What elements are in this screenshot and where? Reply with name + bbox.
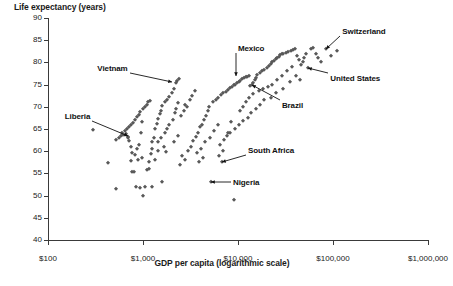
data-point <box>212 129 217 134</box>
data-point <box>178 162 183 167</box>
data-point <box>245 115 250 120</box>
data-point <box>170 118 175 123</box>
annotation-arrow <box>216 149 252 168</box>
data-point <box>231 198 236 203</box>
data-point <box>162 131 167 136</box>
y-tick-label: 80 <box>2 58 42 66</box>
data-point <box>167 122 172 127</box>
data-point <box>164 150 169 155</box>
data-point <box>222 138 227 143</box>
data-point <box>156 140 161 145</box>
data-point <box>156 149 161 154</box>
data-point <box>106 161 111 166</box>
data-point <box>178 113 183 118</box>
y-tick-label: 45 <box>2 214 42 222</box>
data-point <box>137 185 142 190</box>
data-point <box>254 107 259 112</box>
data-point <box>150 140 155 145</box>
data-point <box>141 193 146 198</box>
data-point <box>140 155 145 160</box>
data-point <box>143 185 148 190</box>
annotation-arrow <box>246 79 286 106</box>
annotation-arrow <box>205 176 237 188</box>
data-point <box>218 142 223 147</box>
data-point <box>241 119 246 124</box>
data-point <box>138 131 143 136</box>
x-tick <box>143 240 144 245</box>
data-point <box>135 158 140 163</box>
data-point <box>153 158 158 163</box>
data-point <box>224 133 229 138</box>
data-point <box>238 109 243 114</box>
data-point <box>193 135 198 140</box>
data-point <box>176 101 181 106</box>
data-point <box>208 135 213 140</box>
data-point <box>192 89 197 94</box>
data-point <box>290 64 295 69</box>
y-tick-label: 50 <box>2 192 42 200</box>
data-point <box>203 140 208 145</box>
data-point <box>287 80 292 85</box>
data-point <box>148 152 153 157</box>
data-point <box>140 120 145 125</box>
data-point <box>176 133 181 138</box>
y-tick-label: 40 <box>2 236 42 244</box>
data-point <box>197 160 202 165</box>
annotation-arrow <box>124 67 178 88</box>
data-point <box>153 127 158 132</box>
y-axis-title: Life expectancy (years) <box>14 2 106 12</box>
data-point <box>185 104 190 109</box>
data-point <box>304 51 309 56</box>
data-point <box>114 187 119 192</box>
data-point <box>207 104 212 109</box>
data-point <box>294 73 299 78</box>
data-point <box>134 147 139 152</box>
x-tick <box>333 240 334 245</box>
annotation-arrow <box>302 62 334 79</box>
data-point <box>160 180 165 185</box>
annotation-arrow <box>230 47 242 82</box>
data-point <box>201 155 206 160</box>
y-tick-label: 75 <box>2 81 42 89</box>
data-point <box>189 144 194 149</box>
data-point <box>148 98 153 103</box>
y-tick-label: 70 <box>2 103 42 111</box>
data-point <box>159 135 164 140</box>
y-tick-label: 60 <box>2 147 42 155</box>
data-point <box>199 147 204 152</box>
data-point <box>236 122 241 127</box>
data-point <box>133 152 138 157</box>
data-point <box>249 111 254 116</box>
data-point <box>150 184 155 189</box>
annotation-arrow <box>320 30 346 55</box>
data-point <box>186 149 191 154</box>
y-tick-label: 55 <box>2 169 42 177</box>
data-point <box>182 109 187 114</box>
data-point <box>285 69 290 74</box>
x-tick <box>238 240 239 245</box>
data-point <box>280 73 285 78</box>
data-point <box>215 122 220 127</box>
data-point <box>146 160 151 165</box>
data-point <box>240 104 245 109</box>
data-point <box>154 121 159 126</box>
x-tick <box>428 240 429 245</box>
x-tick <box>48 240 49 245</box>
annotation-label-united-states: United States <box>330 74 380 83</box>
data-point <box>128 159 133 164</box>
y-tick-label: 65 <box>2 125 42 133</box>
data-point <box>172 111 177 116</box>
annotation-label-south-africa: South Africa <box>248 146 294 155</box>
data-point <box>187 98 192 103</box>
annotation-arrow <box>86 115 134 142</box>
y-tick-label: 90 <box>2 14 42 22</box>
data-point <box>128 144 133 149</box>
data-point <box>228 120 233 125</box>
data-point <box>202 118 207 123</box>
y-tick-label: 85 <box>2 36 42 44</box>
data-point <box>171 140 176 145</box>
annotation-label-switzerland: Switzerland <box>342 27 385 36</box>
data-point <box>195 151 200 156</box>
data-point <box>182 158 187 163</box>
